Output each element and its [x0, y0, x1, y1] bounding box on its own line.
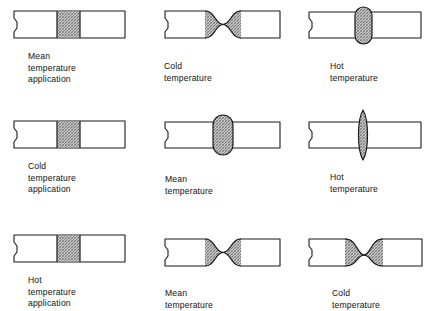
specimen-figure-straight-bar: [12, 118, 128, 154]
specimen-figure-necked-bar: [163, 236, 283, 272]
specimen-caption: Mean temperature application: [28, 51, 76, 86]
specimen-figure-straight-bar: [12, 8, 128, 44]
heat-affected-zone: [359, 110, 368, 160]
heat-affected-zone: [355, 7, 372, 44]
specimen-caption: Mean temperature: [165, 288, 213, 311]
heat-affected-zone: [213, 115, 233, 155]
specimen-figure-necked-bar: [163, 8, 283, 44]
specimen-caption: Mean temperature: [165, 174, 213, 197]
specimen-figure-bulged-bar: [163, 112, 283, 158]
specimen-caption: Hot temperature application: [28, 275, 76, 310]
specimen-caption: Cold temperature: [332, 288, 380, 311]
specimen-caption: Hot temperature: [330, 61, 378, 84]
specimen-figure-necked-bar-deep: [307, 236, 424, 272]
heat-affected-zone: [57, 12, 80, 38]
specimen-caption: Hot temperature: [330, 172, 378, 195]
bar-outline: [309, 239, 422, 266]
heat-affected-zone: [57, 236, 80, 262]
specimen-figure-bulged-bar-tall: [307, 108, 424, 162]
specimen-figure-straight-bar: [12, 232, 128, 268]
specimen-caption: Cold temperature application: [28, 161, 76, 196]
heat-affected-zone: [57, 122, 80, 148]
specimen-figure-bulged-bar: [307, 4, 424, 48]
specimen-caption: Cold temperature: [164, 61, 212, 84]
